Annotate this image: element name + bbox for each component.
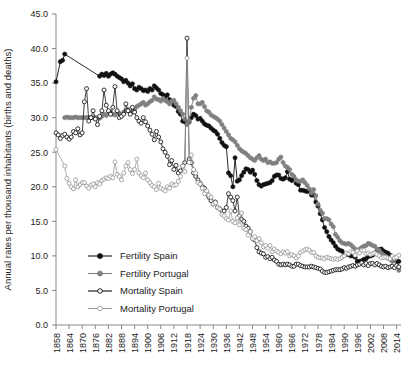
data-point xyxy=(130,82,134,86)
data-point xyxy=(91,109,95,113)
data-point xyxy=(285,250,289,254)
data-point xyxy=(113,85,117,89)
data-point xyxy=(63,52,67,56)
data-point xyxy=(76,127,80,131)
data-point xyxy=(130,105,134,109)
x-tick-label: 2002 xyxy=(366,333,376,353)
data-point xyxy=(185,36,189,40)
data-point xyxy=(187,119,191,123)
data-point xyxy=(133,168,137,172)
x-tick-label: 1978 xyxy=(314,333,324,353)
data-point xyxy=(146,124,150,128)
y-tick-label: 5.0 xyxy=(35,286,48,296)
data-point xyxy=(202,105,206,109)
data-point xyxy=(185,56,189,60)
data-point xyxy=(89,116,93,120)
data-point xyxy=(229,174,233,178)
data-point xyxy=(54,80,58,84)
x-tick-label: 1984 xyxy=(327,333,337,353)
data-point xyxy=(152,138,156,142)
data-point xyxy=(157,135,161,139)
data-point xyxy=(183,170,187,174)
data-point xyxy=(141,176,145,180)
data-point xyxy=(248,230,252,234)
data-point xyxy=(128,112,132,116)
x-tick-label: 1888 xyxy=(117,333,127,353)
data-point xyxy=(113,160,117,164)
x-tick-label: 1942 xyxy=(235,333,245,353)
data-point xyxy=(111,176,115,180)
data-point xyxy=(102,88,106,92)
data-point xyxy=(115,109,119,113)
data-point xyxy=(181,164,185,168)
data-point xyxy=(194,171,198,175)
data-point xyxy=(397,265,401,269)
data-point xyxy=(159,140,163,144)
x-tick-label: 1870 xyxy=(78,333,88,353)
data-point xyxy=(270,178,274,182)
y-tick-label: 0.0 xyxy=(35,320,48,330)
data-point xyxy=(122,171,126,175)
data-point xyxy=(71,187,75,191)
data-point xyxy=(189,105,193,109)
x-tick-label: 1966 xyxy=(287,333,297,353)
data-point xyxy=(314,194,318,198)
y-tick-label: 25.0 xyxy=(30,148,48,158)
y-tick-label: 20.0 xyxy=(30,182,48,192)
chart-container: Annual rates per thousand inhabitants (b… xyxy=(0,0,418,367)
data-point xyxy=(69,135,73,139)
x-tick-label: 1954 xyxy=(261,333,271,353)
data-point xyxy=(283,176,287,180)
data-point xyxy=(85,87,89,91)
y-tick-label: 40.0 xyxy=(30,44,48,54)
x-tick-label: 1990 xyxy=(340,333,350,353)
x-tick-label: 1960 xyxy=(274,333,284,353)
legend-label: Mortality Portugal xyxy=(120,303,194,314)
data-point xyxy=(397,259,401,263)
data-point xyxy=(163,150,167,154)
data-point xyxy=(104,103,108,107)
data-point xyxy=(235,216,239,220)
data-point xyxy=(122,112,126,116)
legend-label: Mortality Spain xyxy=(120,285,183,296)
data-point xyxy=(194,93,198,97)
x-tick-label: 1882 xyxy=(104,333,114,353)
data-point xyxy=(163,189,167,193)
data-point xyxy=(316,202,320,206)
data-point xyxy=(253,172,257,176)
data-point xyxy=(124,102,128,106)
x-tick-label: 1972 xyxy=(300,333,310,353)
data-point xyxy=(148,128,152,132)
data-point xyxy=(231,185,235,189)
data-point xyxy=(172,168,176,172)
legend-marker xyxy=(97,253,102,258)
data-point xyxy=(231,199,235,203)
data-point xyxy=(120,178,124,182)
data-point xyxy=(100,109,104,113)
data-point xyxy=(93,185,97,189)
legend-marker xyxy=(97,271,102,276)
data-point xyxy=(198,182,202,186)
x-tick-label: 1924 xyxy=(196,333,206,353)
x-tick-label: 1876 xyxy=(91,333,101,353)
x-tick-label: 1900 xyxy=(143,333,153,353)
data-point xyxy=(187,161,191,165)
data-point xyxy=(279,155,283,159)
data-point xyxy=(60,58,64,62)
data-point xyxy=(130,172,134,176)
x-tick-label: 1918 xyxy=(183,333,193,353)
demographic-transition-chart: Annual rates per thousand inhabitants (b… xyxy=(0,0,418,367)
x-tick-label: 1912 xyxy=(169,333,179,353)
data-point xyxy=(144,171,148,175)
data-point xyxy=(154,129,158,133)
data-point xyxy=(327,218,331,222)
data-point xyxy=(331,225,335,229)
x-tick-label: 1864 xyxy=(65,333,75,353)
data-point xyxy=(168,163,172,167)
data-point xyxy=(213,201,217,205)
data-point xyxy=(205,189,209,193)
data-point xyxy=(227,218,231,222)
data-point xyxy=(237,178,241,182)
data-point xyxy=(109,112,113,116)
data-point xyxy=(176,179,180,183)
